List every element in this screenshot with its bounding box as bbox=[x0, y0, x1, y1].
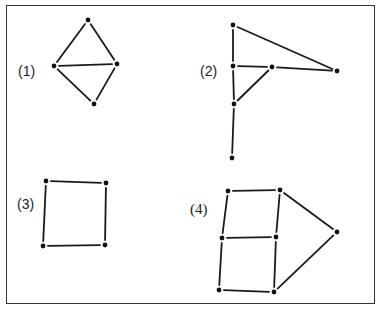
edge-a-b bbox=[233, 190, 275, 191]
node-br bbox=[103, 243, 108, 248]
edge-b-d bbox=[276, 195, 279, 232]
node-a bbox=[226, 189, 231, 194]
edge-c-d bbox=[227, 237, 271, 238]
node-top bbox=[86, 18, 91, 23]
edge-right-bottom bbox=[96, 68, 114, 99]
edge-b-e bbox=[284, 193, 333, 229]
edge-top-right bbox=[91, 24, 114, 60]
edge-top-left bbox=[57, 24, 85, 62]
edge-d-g bbox=[274, 242, 276, 287]
graph-label-1: (1) bbox=[18, 64, 35, 78]
edge-f-g bbox=[224, 290, 269, 292]
graph-figure: (1) (2) (3) (4) bbox=[0, 0, 382, 312]
edge-a-c bbox=[223, 196, 228, 233]
node-tl bbox=[44, 179, 49, 184]
node-f bbox=[217, 288, 222, 293]
node-f bbox=[230, 156, 235, 161]
edge-b-e bbox=[233, 71, 234, 99]
edge-tl-tr bbox=[51, 181, 101, 183]
edge-c-d bbox=[277, 67, 332, 70]
node-g bbox=[272, 290, 277, 295]
node-c bbox=[220, 236, 225, 241]
graph-4 bbox=[217, 188, 340, 295]
graph-label-3: (3) bbox=[17, 197, 34, 211]
edge-b-c bbox=[238, 66, 267, 67]
node-right bbox=[115, 62, 120, 67]
graphs-canvas bbox=[0, 0, 382, 312]
node-bottom bbox=[92, 102, 97, 107]
graph-3 bbox=[41, 179, 109, 249]
node-d bbox=[274, 235, 279, 240]
edge-a-d bbox=[238, 27, 333, 69]
edge-e-f bbox=[232, 109, 234, 153]
graph-1 bbox=[52, 18, 120, 107]
node-tr bbox=[104, 181, 109, 186]
node-c bbox=[270, 65, 275, 70]
graph-label-4: (4) bbox=[190, 202, 208, 217]
node-b bbox=[278, 188, 283, 193]
edge-bl-br bbox=[48, 245, 100, 246]
node-d bbox=[335, 69, 340, 74]
node-a bbox=[231, 23, 236, 28]
node-bl bbox=[41, 244, 46, 249]
graph-2 bbox=[230, 23, 340, 161]
edge-left-bottom bbox=[58, 69, 91, 100]
graph-label-2: (2) bbox=[200, 64, 217, 78]
edge-g-e bbox=[278, 235, 334, 288]
edge-tl-bl bbox=[43, 186, 46, 241]
edge-tr-br bbox=[105, 188, 106, 240]
node-left bbox=[52, 64, 57, 69]
edge-c-e bbox=[238, 70, 269, 100]
node-b bbox=[231, 64, 236, 69]
node-e bbox=[335, 230, 340, 235]
edge-c-f bbox=[219, 243, 221, 285]
edge-left-right bbox=[59, 64, 112, 66]
node-e bbox=[232, 102, 237, 107]
